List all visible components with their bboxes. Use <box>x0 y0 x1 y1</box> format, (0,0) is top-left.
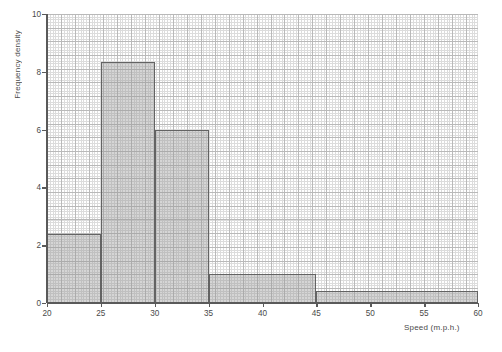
histogram-bar-25-30 <box>101 62 155 303</box>
x-tick-label: 45 <box>312 309 321 318</box>
y-tick-label: 6 <box>36 125 41 134</box>
x-tick-label: 25 <box>96 309 105 318</box>
x-tick-label: 50 <box>366 309 375 318</box>
x-tick-mark <box>209 303 210 307</box>
y-axis-title: Frequency density <box>13 30 22 99</box>
y-tick-label: 10 <box>32 10 41 19</box>
x-axis-title: Speed (m.p.h.) <box>404 323 460 332</box>
x-tick-label: 20 <box>42 309 51 318</box>
x-tick-mark <box>155 303 156 307</box>
y-tick-label: 2 <box>36 241 41 250</box>
chart-canvas: 202530354045505560 0246810 Frequency den… <box>0 0 502 352</box>
histogram-bar-30-35 <box>155 130 209 303</box>
histogram-bar-35-45 <box>209 274 317 303</box>
y-tick-mark <box>42 72 46 73</box>
x-tick-mark <box>424 303 425 307</box>
x-tick-mark <box>263 303 264 307</box>
plot-area <box>47 14 478 303</box>
y-tick-mark <box>42 187 46 188</box>
x-tick-mark <box>47 303 48 307</box>
x-tick-mark <box>101 303 102 307</box>
x-tick-label: 60 <box>473 309 482 318</box>
x-tick-label: 30 <box>150 309 159 318</box>
y-tick-mark <box>42 130 46 131</box>
histogram-bar-20-25 <box>47 234 101 303</box>
y-axis-line <box>46 14 48 303</box>
y-tick-label: 0 <box>36 299 41 308</box>
y-tick-mark <box>42 303 46 304</box>
x-tick-mark <box>370 303 371 307</box>
y-tick-mark <box>42 245 46 246</box>
x-tick-mark <box>316 303 317 307</box>
x-tick-label: 55 <box>420 309 429 318</box>
x-tick-label: 40 <box>258 309 267 318</box>
y-tick-label: 8 <box>36 67 41 76</box>
y-tick-mark <box>42 14 46 15</box>
y-tick-label: 4 <box>36 183 41 192</box>
x-tick-mark <box>478 303 479 307</box>
x-tick-label: 35 <box>204 309 213 318</box>
